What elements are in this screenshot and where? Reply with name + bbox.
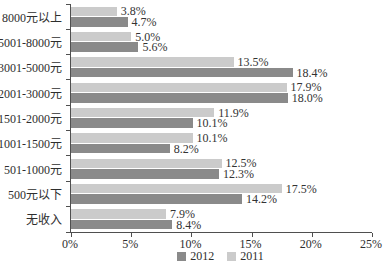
- legend-label-2012: 2012: [190, 249, 214, 264]
- bar-line-2012: 8.2%: [71, 144, 372, 154]
- legend-entry-2012: 2012: [177, 249, 214, 264]
- category-row: 3.8%4.7%: [71, 4, 372, 29]
- y-axis-tick: [66, 181, 70, 182]
- category-label: 5001-8000元: [0, 29, 66, 54]
- category-row: 12.5%12.3%: [71, 156, 372, 181]
- category-label: 3001-5000元: [0, 55, 66, 80]
- bar-value-label: 8.2%: [174, 144, 199, 154]
- legend-label-2011: 2011: [240, 249, 264, 264]
- y-axis-tick: [66, 206, 70, 207]
- category-label: 2001-3000元: [0, 80, 66, 105]
- legend-entry-2011: 2011: [227, 249, 264, 264]
- bar-line-2012: 8.4%: [71, 220, 372, 230]
- bar-2012: [71, 194, 242, 204]
- bar-value-label: 18.0%: [292, 93, 323, 103]
- category-row: 11.9%10.1%: [71, 105, 372, 130]
- bar-2012: [71, 68, 293, 78]
- category-row: 17.9%18.0%: [71, 80, 372, 105]
- bar-2012: [71, 220, 172, 230]
- bar-line-2012: 18.4%: [71, 68, 372, 78]
- y-axis-tick: [66, 105, 70, 106]
- bar-value-label: 5.6%: [142, 42, 167, 52]
- bar-value-label: 17.5%: [286, 184, 317, 194]
- category-row: 5.0%5.6%: [71, 29, 372, 54]
- y-axis-tick: [66, 54, 70, 55]
- bar-line-2011: 5.0%: [71, 32, 372, 42]
- category-row: 13.5%18.4%: [71, 55, 372, 80]
- category-label: 500元以下: [0, 181, 66, 206]
- bar-2011: [71, 209, 166, 219]
- bar-2011: [71, 83, 287, 93]
- bar-value-label: 13.5%: [238, 57, 269, 67]
- bar-line-2011: 17.5%: [71, 184, 372, 194]
- legend-swatch-2011: [227, 252, 236, 261]
- bar-line-2012: 10.1%: [71, 118, 372, 128]
- bar-value-label: 8.4%: [176, 220, 201, 230]
- category-axis-labels: 8000元以上5001-8000元3001-5000元2001-3000元150…: [0, 4, 66, 232]
- y-axis-tick: [66, 130, 70, 131]
- bar-2011: [71, 108, 214, 118]
- bar-2011: [71, 7, 117, 17]
- y-axis-tick: [66, 29, 70, 30]
- plot-area: 3.8%4.7%5.0%5.6%13.5%18.4%17.9%18.0%11.9…: [70, 4, 372, 233]
- bar-line-2012: 12.3%: [71, 169, 372, 179]
- bar-2012: [71, 42, 138, 52]
- bar-line-2011: 3.8%: [71, 7, 372, 17]
- category-label: 501-1000元: [0, 156, 66, 181]
- y-axis-tick: [66, 4, 70, 5]
- y-axis-tick: [66, 232, 70, 233]
- category-row: 7.9%8.4%: [71, 207, 372, 232]
- bar-line-2012: 18.0%: [71, 93, 372, 103]
- category-label: 1501-2000元: [0, 105, 66, 130]
- legend: 20122011: [70, 249, 371, 263]
- bar-2012: [71, 118, 193, 128]
- bar-2011: [71, 159, 222, 169]
- bar-line-2012: 5.6%: [71, 42, 372, 52]
- bar-line-2012: 4.7%: [71, 17, 372, 27]
- bar-2012: [71, 169, 219, 179]
- legend-swatch-2012: [177, 252, 186, 261]
- bars-container: 3.8%4.7%5.0%5.6%13.5%18.4%17.9%18.0%11.9…: [71, 4, 372, 232]
- category-row: 17.5%14.2%: [71, 181, 372, 206]
- category-label: 1001-1500元: [0, 131, 66, 156]
- bar-line-2011: 7.9%: [71, 209, 372, 219]
- bar-2011: [71, 57, 234, 67]
- bar-value-label: 18.4%: [297, 68, 328, 78]
- bar-line-2012: 14.2%: [71, 194, 372, 204]
- bar-value-label: 12.3%: [223, 169, 254, 179]
- bar-line-2011: 10.1%: [71, 133, 372, 143]
- bar-chart: 8000元以上5001-8000元3001-5000元2001-3000元150…: [0, 0, 390, 264]
- bar-2011: [71, 32, 131, 42]
- bar-value-label: 14.2%: [246, 194, 277, 204]
- bar-value-label: 10.1%: [197, 133, 228, 143]
- bar-line-2011: 12.5%: [71, 159, 372, 169]
- category-label: 8000元以上: [0, 4, 66, 29]
- category-row: 10.1%8.2%: [71, 131, 372, 156]
- bar-2012: [71, 144, 170, 154]
- bar-line-2011: 17.9%: [71, 83, 372, 93]
- bar-value-label: 4.7%: [132, 17, 157, 27]
- y-axis-tick: [66, 79, 70, 80]
- category-label: 无收入: [0, 207, 66, 232]
- y-axis-tick: [66, 155, 70, 156]
- bar-2012: [71, 17, 128, 27]
- bar-value-label: 10.1%: [197, 118, 228, 128]
- bar-2012: [71, 93, 288, 103]
